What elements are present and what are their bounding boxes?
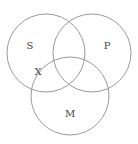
label-s: S xyxy=(27,40,34,51)
circle-p xyxy=(53,14,131,92)
venn-diagram: S P M X xyxy=(0,0,138,144)
point-label-x: X xyxy=(34,66,42,77)
label-p: P xyxy=(104,40,111,51)
circle-s xyxy=(7,14,85,92)
label-m: M xyxy=(65,108,75,119)
circle-m xyxy=(31,57,109,135)
